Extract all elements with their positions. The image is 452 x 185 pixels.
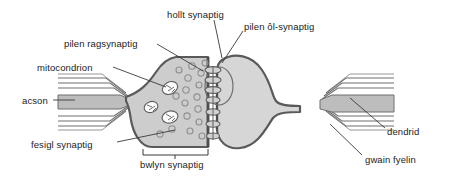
label-gwain-fyelin: gwain fyelin xyxy=(365,155,416,165)
left-axon-group xyxy=(58,74,132,130)
leader-gwain-fyelin xyxy=(330,124,362,155)
label-bwlyn-synaptig: bwlyn synaptig xyxy=(140,160,204,170)
label-dendrid: dendrid xyxy=(387,127,419,137)
label-pilen-ragsynaptig: pilen ragsynaptig xyxy=(64,39,138,49)
presynaptic-terminal-body xyxy=(126,57,208,147)
postsynaptic-cell-body xyxy=(217,56,300,149)
leader-hollt-synaptig xyxy=(214,20,222,58)
label-acson: acson xyxy=(22,96,48,106)
label-hollt-synaptig: hollt synaptig xyxy=(167,10,224,20)
left-axon-core xyxy=(58,95,132,109)
right-dendrite-group xyxy=(320,74,394,130)
synapse-diagram: hollt synaptig pilen ôl-synaptig pilen r… xyxy=(0,0,452,185)
label-pilen-ol-synaptig: pilen ôl-synaptig xyxy=(244,22,314,32)
label-mitocondrion: mitocondrion xyxy=(37,63,93,73)
bwlyn-synaptig-bracket xyxy=(143,149,208,159)
label-fesigl-synaptig: fesigl synaptig xyxy=(31,140,93,150)
